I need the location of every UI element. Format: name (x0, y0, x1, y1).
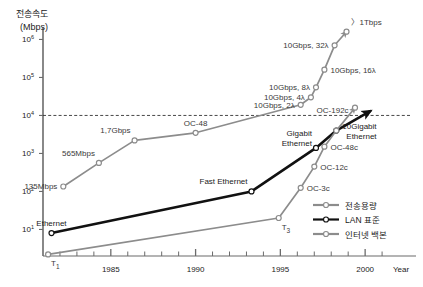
data-point-marker (353, 105, 358, 110)
series-line (63, 32, 346, 187)
y-tick-label: 106 (22, 34, 34, 45)
point-label: OC-3c (307, 184, 330, 193)
legend-swatch-marker (324, 217, 329, 222)
x-tick-label: 2000 (356, 265, 374, 274)
data-point-marker (308, 95, 313, 100)
data-point-marker (276, 216, 281, 221)
data-point-marker (298, 185, 303, 190)
data-point-marker (49, 231, 54, 236)
legend: 전송용량LAN 표준인터넷 백본 (313, 201, 387, 240)
point-label: Ethernet (36, 219, 67, 228)
data-point-marker (314, 85, 319, 90)
x-tick-label: 1985 (102, 265, 120, 274)
y-axis-title-line2: (Mbps) (20, 22, 48, 32)
legend-swatch-marker (324, 203, 329, 208)
point-label: 10GigabitEthernet (342, 122, 377, 142)
data-point-marker (249, 189, 254, 194)
legend-item-0[interactable]: 전송용량 (313, 201, 377, 211)
point-label: T1 (51, 259, 60, 270)
data-point-marker (46, 252, 51, 257)
x-axis-ticks: 1985199019952000 (60, 249, 382, 274)
data-point-marker (193, 130, 198, 135)
point-label: T3 (282, 223, 291, 234)
legend-label: 인터넷 백본 (345, 230, 387, 240)
x-tick-label: 1990 (187, 265, 205, 274)
data-point-marker (334, 128, 339, 133)
y-tick-label: 105 (22, 72, 34, 83)
chart-svg: 106105104103102101 1985199019952000 135M… (0, 0, 423, 287)
data-point-marker (132, 138, 137, 143)
y-axis-title-line1: 전송속도 (16, 9, 48, 19)
legend-item-2[interactable]: 인터넷 백본 (313, 230, 387, 240)
legend-item-1[interactable]: LAN 표준 (313, 215, 380, 225)
point-label: OC-192c (317, 106, 349, 115)
legend-label: 전송용량 (345, 201, 377, 211)
data-point-marker (61, 184, 66, 189)
legend-swatch-marker (324, 232, 329, 237)
point-label: Fast Ethernet (200, 177, 249, 186)
point-label: 1,7Gbps (100, 126, 130, 135)
data-point-marker (322, 67, 327, 72)
point-label: OC-48c (330, 143, 358, 152)
point-label: 10Gbps, 16λ (330, 66, 375, 75)
data-point-marker (322, 144, 327, 149)
chart-figure: 106105104103102101 1985199019952000 135M… (0, 0, 423, 287)
y-axis-ticks: 106105104103102101 (22, 34, 43, 235)
point-label: GigabitEthernet (282, 129, 313, 149)
point-label: 135Mbps (24, 182, 57, 191)
data-point-marker (312, 164, 317, 169)
x-axis-title: Year (393, 265, 410, 274)
y-tick-label: 104 (22, 110, 34, 121)
data-point-marker (298, 102, 303, 107)
legend-label: LAN 표준 (345, 215, 380, 225)
point-label: 〉1Tbps (351, 18, 381, 27)
point-label: 10Gbps, 8λ (269, 83, 310, 92)
y-tick-label: 101 (22, 224, 34, 235)
data-series-layer (46, 29, 371, 257)
series-transmission-capacity (61, 29, 349, 189)
point-label: 10Gbps, 32λ (283, 41, 328, 50)
x-tick-label: 1995 (271, 265, 289, 274)
data-point-marker (96, 160, 101, 165)
point-label: 10Gbps, 4λ (264, 93, 305, 102)
point-label: OC-12c (320, 163, 348, 172)
point-label: OC-48 (184, 119, 208, 128)
y-tick-label: 103 (22, 148, 34, 159)
data-point-marker (332, 43, 337, 48)
data-point-marker (314, 145, 319, 150)
data-point-marker (344, 29, 349, 34)
point-label: 565Mbps (62, 149, 95, 158)
